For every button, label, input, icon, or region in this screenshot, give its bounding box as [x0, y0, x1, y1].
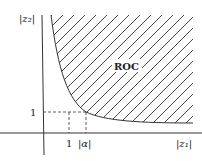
- hatch-line: [37, 10, 167, 140]
- roc-hatch: [0, 10, 202, 140]
- hatch-line: [103, 10, 202, 140]
- hatch-line: [0, 10, 35, 140]
- hatch-line: [0, 10, 112, 140]
- hatch-line: [169, 10, 202, 140]
- y-axis-label: |z₂|: [19, 13, 35, 25]
- roc-diagram: |z₂| |z₁| 1 1 |α| ROC: [0, 0, 202, 161]
- hatch-line: [70, 10, 200, 140]
- hatch-line: [81, 10, 202, 140]
- hatch-line: [0, 10, 101, 140]
- hatch-line: [0, 10, 46, 140]
- hatch-line: [4, 10, 134, 140]
- hatch-line: [26, 10, 156, 140]
- y-axis: [42, 15, 44, 155]
- x-axis-label: |z₁|: [176, 138, 192, 150]
- hatch-line: [0, 10, 13, 140]
- hatch-line: [48, 10, 178, 140]
- x-tick-alpha: |α|: [78, 138, 92, 150]
- hatch-line: [0, 10, 24, 140]
- hatch-line: [0, 10, 90, 140]
- hatch-line: [0, 10, 123, 140]
- hatch-line: [191, 10, 202, 140]
- x-tick-1: 1: [66, 138, 72, 149]
- roc-label: ROC: [114, 61, 139, 72]
- hatch-line: [0, 10, 57, 140]
- y-tick-1: 1: [30, 107, 36, 118]
- hatch-line: [0, 10, 68, 140]
- hatch-line: [0, 10, 2, 140]
- hatch-line: [0, 10, 79, 140]
